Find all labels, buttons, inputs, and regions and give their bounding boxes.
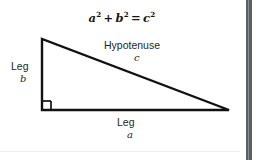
scrollbar-highlight	[248, 0, 249, 160]
content-panel: a2+b2=c2 Hypotenuse c Leg b Leg a	[0, 0, 244, 160]
hypotenuse-label: Hypotenuse	[104, 40, 160, 51]
equation-plus-sign: +	[101, 11, 115, 25]
diagram-page: a2+b2=c2 Hypotenuse c Leg b Leg a	[0, 0, 259, 160]
hypotenuse-variable-label: c	[134, 53, 140, 63]
vertical-scrollbar[interactable]	[246, 0, 252, 160]
horizontal-leg-label: Leg	[117, 117, 135, 128]
pythagorean-equation: a2+b2=c2	[0, 13, 244, 25]
page-bottom-rule	[0, 151, 240, 152]
equation-exponent-c: 2	[150, 10, 155, 19]
equation-term-b: b	[115, 11, 123, 25]
vertical-leg-variable-label: b	[20, 74, 26, 84]
page-right-gutter	[244, 0, 259, 160]
horizontal-leg-variable-label: a	[127, 130, 133, 140]
vertical-leg-label: Leg	[11, 61, 29, 72]
equation-equals-sign: =	[129, 11, 143, 25]
